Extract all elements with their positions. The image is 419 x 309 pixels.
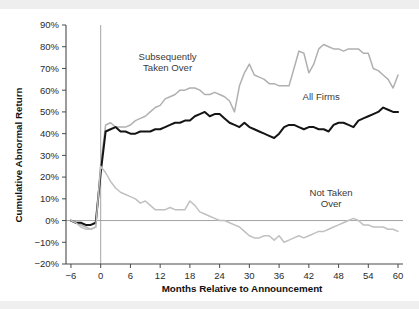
x-tick-label: 30	[244, 270, 255, 281]
x-axis-title: Months Relative to Announcement	[162, 283, 323, 294]
series-layer	[71, 45, 398, 243]
y-axis-title: Cumulative Abnormal Return	[13, 87, 24, 222]
y-tick-label: 40%	[40, 128, 60, 139]
y-tick-label: 60%	[40, 85, 60, 96]
x-tick-label: 42	[304, 270, 315, 281]
cumulative-abnormal-return-chart: −20%−10%0%10%20%30%40%50%60%70%80%90%−60…	[0, 0, 419, 309]
y-tick-label: 0%	[45, 215, 59, 226]
x-tick-label: 12	[155, 270, 166, 281]
y-tick-label: 20%	[40, 171, 60, 182]
x-tick-label: 48	[333, 270, 344, 281]
y-tick-label: 70%	[40, 63, 60, 74]
x-tick-label: 18	[185, 270, 196, 281]
y-tick-label: 10%	[40, 193, 60, 204]
y-tick-label: 30%	[40, 150, 60, 161]
series-line-subsequently-taken-over	[71, 45, 398, 230]
series-line-all-firms	[71, 108, 398, 225]
series-line-not-taken-over	[71, 166, 398, 242]
y-tick-label: 90%	[40, 19, 60, 30]
series-annotation-all-firms: All Firms	[303, 91, 341, 102]
y-tick-label: 80%	[40, 41, 60, 52]
x-tick-label: 36	[274, 270, 285, 281]
x-tick-label: 54	[363, 270, 374, 281]
x-tick-label: 60	[393, 270, 404, 281]
chart-figure: −20%−10%0%10%20%30%40%50%60%70%80%90%−60…	[0, 0, 419, 309]
y-tick-label: −20%	[34, 258, 59, 269]
series-annotation-subsequently-taken-over: Subsequently	[139, 51, 197, 62]
x-tick-label: 0	[98, 270, 103, 281]
plot-area	[66, 25, 403, 264]
series-annotation-subsequently-taken-over: Taken Over	[143, 62, 193, 73]
series-annotation-not-taken-over: Not Taken	[310, 187, 353, 198]
y-tick-label: 50%	[40, 106, 60, 117]
y-tick-label: −10%	[34, 237, 59, 248]
x-tick-label: 24	[214, 270, 225, 281]
axes-layer: −20%−10%0%10%20%30%40%50%60%70%80%90%−60…	[34, 19, 403, 281]
x-tick-label: 6	[128, 270, 133, 281]
series-annotation-not-taken-over: Over	[321, 198, 343, 209]
x-tick-label: −6	[66, 270, 77, 281]
